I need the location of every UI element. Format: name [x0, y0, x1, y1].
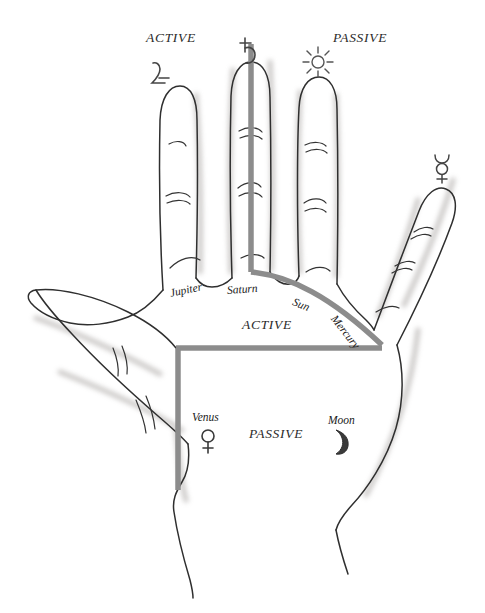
mount-label-venus: Venus: [192, 412, 219, 424]
sun-symbol: [301, 45, 335, 79]
moon-symbol: [329, 427, 355, 457]
mount-label-moon: Moon: [328, 415, 355, 427]
zone-label-passive-top: PASSIVE: [333, 31, 387, 45]
venus-symbol: [197, 426, 219, 456]
zone-label-passive-palm: PASSIVE: [249, 427, 303, 441]
zone-label-active-palm: ACTIVE: [242, 318, 292, 332]
palmistry-diagram: ACTIVE PASSIVE Jupiter Saturn Sun Mercur…: [0, 0, 485, 613]
zone-label-active-top: ACTIVE: [146, 31, 196, 45]
jupiter-symbol: [148, 58, 174, 92]
saturn-symbol: [236, 35, 262, 69]
mercury-symbol: [429, 152, 455, 186]
pencil-shading: [36, 62, 453, 500]
hand-illustration: [0, 0, 485, 613]
finger-label-saturn: Saturn: [227, 283, 258, 297]
arc-divider: [251, 272, 382, 345]
